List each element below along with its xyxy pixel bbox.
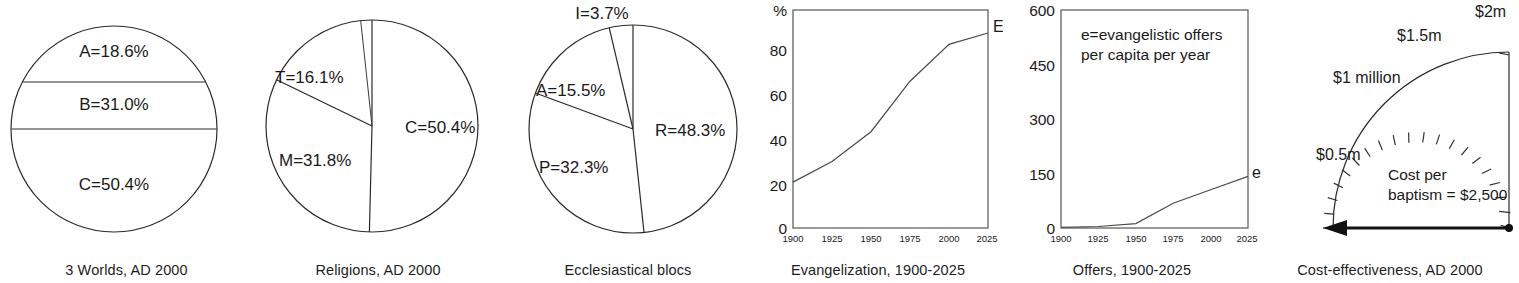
x-tick-2000: 2000 [938,233,959,244]
panel-ecclesiastical-blocs: R=48.3% P=32.3% A=15.5% I=3.7% Ecclesias… [503,0,753,283]
dial-label-2m: $2m [1475,3,1506,20]
x-tick-1950: 1950 [1125,233,1146,244]
panel-caption-cost-effectiveness: Cost-effectiveness, AD 2000 [1261,262,1519,278]
annotation-line-1: Cost per [1388,166,1447,183]
x-tick-1975: 1975 [899,233,920,244]
x-tick-1900: 1900 [1050,233,1071,244]
x-tick-2000: 2000 [1200,233,1221,244]
panel-three-worlds: A=18.6% B=31.0% C=50.4% 3 Worlds, AD 200… [0,0,253,283]
y-tick-450: 450 [1029,57,1055,74]
y-tick-600: 600 [1029,2,1055,19]
y-tick-20: 20 [770,177,788,194]
panel-evangelization: % 80 60 40 20 0 E 1900 1925 1950 1975 20… [753,0,1003,283]
slice-label-b: B=31.0% [79,95,148,114]
x-tick-2025: 2025 [1236,233,1257,244]
panel-caption-three-worlds: 3 Worlds, AD 2000 [0,262,253,278]
y-tick-150: 150 [1029,166,1055,183]
plot-frame [793,10,988,228]
slice-label-t: T=16.1% [275,68,344,87]
series-end-label-e: e [1252,164,1261,181]
y-axis-unit: % [773,2,787,19]
x-tick-1925: 1925 [821,233,842,244]
x-tick-1925: 1925 [1087,233,1108,244]
annotation-line-2: baptism = $2,500 [1388,186,1508,203]
slice-label-i: I=3.7% [575,4,628,23]
slice-label-r: R=48.3% [655,121,725,140]
y-tick-60: 60 [770,87,788,104]
religions-chart: C=50.4% M=31.8% T=16.1% [253,0,503,250]
y-tick-80: 80 [770,42,788,59]
annotation-line-2: per capita per year [1081,46,1210,63]
dial-label-0-5m: $0.5m [1316,146,1360,163]
cost-effectiveness-gauge: $0.5m $1 million $1.5m $2m Cost per bapt… [1261,0,1519,250]
slice-label-a: A=18.6% [79,42,148,61]
x-tick-1900: 1900 [782,233,803,244]
panel-caption-offers: Offers, 1900-2025 [1003,262,1261,278]
panel-offers: 600 450 300 150 0 e=evangelistic offers … [1003,0,1261,283]
slice-label-m: M=31.8% [279,151,351,170]
annotation-line-1: e=evangelistic offers [1081,26,1223,43]
dial-label-1-5m: $1.5m [1397,27,1441,44]
pie-divider-t-sliver [361,21,372,126]
panel-religions: C=50.4% M=31.8% T=16.1% Religions, AD 20… [253,0,503,283]
slice-label-p: P=32.3% [539,158,608,177]
panel-strip: A=18.6% B=31.0% C=50.4% 3 Worlds, AD 200… [0,0,1519,283]
series-line-E [793,33,988,182]
x-tick-1950: 1950 [860,233,881,244]
panel-caption-religions: Religions, AD 2000 [253,262,503,278]
slice-label-c: C=50.4% [79,175,149,194]
pie-divider-c-m [369,126,372,232]
evangelization-chart: % 80 60 40 20 0 E 1900 1925 1950 1975 20… [753,0,1003,250]
x-tick-1975: 1975 [1162,233,1183,244]
slice-label-a: A=15.5% [536,81,605,100]
slice-label-c: C=50.4% [405,118,475,137]
pie-divider-r-p [633,129,644,232]
pie-divider-a-i [609,28,633,129]
panel-cost-effectiveness: $0.5m $1 million $1.5m $2m Cost per bapt… [1261,0,1519,283]
panel-caption-evangelization: Evangelization, 1900-2025 [753,262,1003,278]
gauge-pivot-dot [1505,224,1513,232]
three-worlds-chart: A=18.6% B=31.0% C=50.4% [0,0,253,250]
x-tick-2025: 2025 [976,233,997,244]
series-end-label-E: E [993,18,1003,35]
y-tick-40: 40 [770,132,788,149]
ecclesiastical-blocs-chart: R=48.3% P=32.3% A=15.5% I=3.7% [503,0,753,250]
gauge-needle-arrowhead [1323,220,1347,236]
dial-label-1-million: $1 million [1333,69,1401,86]
panel-caption-ecclesiastical-blocs: Ecclesiastical blocs [503,262,753,278]
series-line-e [1061,176,1248,227]
y-tick-300: 300 [1029,111,1055,128]
offers-chart: 600 450 300 150 0 e=evangelistic offers … [1003,0,1261,250]
